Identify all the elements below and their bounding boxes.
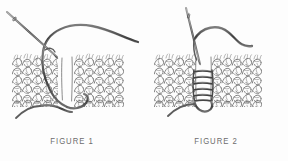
yarn-tail-lower-left [168,104,195,116]
yarn-bottom-loop [195,102,213,112]
fabric-piece-right [74,58,124,109]
seam-gap [62,57,73,101]
fabric-piece-left [12,58,62,109]
yarn-top-arc [43,25,138,52]
figure-2-caption: FIGURE 2 [154,136,278,146]
ladder-rung [194,77,212,78]
ladder-rungs [194,71,212,101]
figure-2-panel: FIGURE 2 [144,0,288,161]
figure-1-panel: FIGURE 1 [0,0,144,161]
ladder-rung [194,83,212,84]
figure-1-caption: FIGURE 1 [10,136,134,146]
fabric-piece-right [212,58,262,109]
ladder-rung [194,71,212,72]
ladder-rung [194,95,212,96]
ladder-rung [195,100,211,101]
ladder-rung [194,89,212,90]
illustration-sheet: FIGURE 1 [0,0,288,161]
needle [186,8,201,66]
yarn-tail-lower-left [16,106,40,118]
